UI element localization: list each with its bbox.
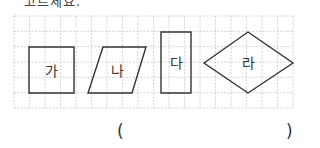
shapes: 가나다라 <box>29 32 293 93</box>
answer-blank[interactable] <box>130 121 280 143</box>
shape-label: 가 <box>45 63 58 79</box>
shape-label: 라 <box>242 55 255 71</box>
answer-close-paren: ) <box>286 121 293 141</box>
shape-label: 나 <box>111 63 124 79</box>
shape-label: 다 <box>170 55 183 71</box>
answer-open-paren: ( <box>117 121 124 141</box>
